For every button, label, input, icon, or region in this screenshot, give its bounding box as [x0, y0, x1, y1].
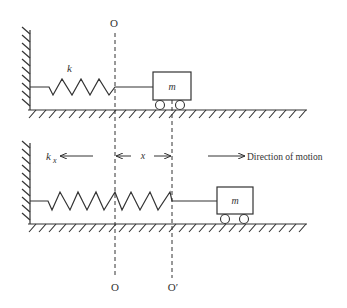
displaced-origin-label: O′	[168, 281, 178, 293]
bottom-wheel-left	[221, 215, 230, 224]
bottom-ground	[28, 224, 307, 232]
top-wall	[22, 27, 30, 110]
displacement-label: x	[140, 150, 146, 161]
top-panel: k m O	[22, 17, 307, 118]
origin-label-top: O	[110, 17, 118, 29]
svg-text:k: k	[46, 150, 52, 162]
bottom-wall	[22, 141, 30, 224]
top-wheel-right	[176, 101, 185, 110]
top-ground	[28, 110, 307, 118]
bottom-mass-label: m	[231, 195, 238, 206]
top-spring	[30, 79, 153, 95]
top-wheel-left	[156, 101, 165, 110]
top-mass-label: m	[168, 81, 175, 92]
restoring-force-label: k x	[46, 150, 57, 165]
direction-label: Direction of motion	[247, 152, 323, 162]
spring-constant-label: k	[67, 62, 73, 74]
bottom-spring	[30, 192, 217, 210]
svg-text:x: x	[52, 156, 57, 165]
origin-label-bottom: O	[111, 281, 119, 293]
spring-mass-diagram: k m O m	[0, 0, 347, 308]
bottom-wheel-right	[240, 215, 249, 224]
